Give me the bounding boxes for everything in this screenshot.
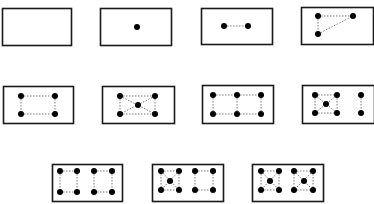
dot (301, 178, 307, 184)
panel-frame (4, 87, 74, 124)
panel-8-dots (53, 165, 123, 202)
dot (210, 111, 216, 117)
dot (74, 168, 80, 174)
dot (291, 187, 297, 193)
dot (210, 92, 216, 98)
dot (334, 92, 340, 98)
dot (221, 23, 227, 29)
dot (210, 187, 216, 193)
dot (234, 92, 240, 98)
dot (18, 111, 24, 117)
dashed-connector (318, 16, 353, 34)
panel-6-dots (203, 86, 274, 124)
dot (291, 168, 297, 174)
dot (91, 189, 97, 195)
panel-10-dots (253, 165, 324, 202)
dot (312, 110, 318, 116)
dot (117, 111, 123, 117)
dot-pattern-diagram (0, 0, 374, 204)
dot (57, 168, 63, 174)
dot (109, 189, 115, 195)
dot (334, 110, 340, 116)
dot (276, 187, 282, 193)
panel-3-dots (302, 8, 374, 45)
dot (258, 111, 264, 117)
panel-5-dots (103, 87, 175, 124)
dot (192, 168, 198, 174)
dot (258, 92, 264, 98)
panel-2-dots (202, 9, 273, 45)
diagram-canvas (0, 0, 374, 204)
dot (167, 178, 173, 184)
dot (358, 110, 364, 116)
dot (258, 168, 264, 174)
dot (315, 31, 321, 37)
dot (258, 187, 264, 193)
dot (312, 92, 318, 98)
panel-0-dots (3, 9, 72, 46)
dot (234, 111, 240, 117)
dot (176, 187, 182, 193)
dot (52, 111, 58, 117)
panel-4-dots (4, 87, 74, 124)
dot (358, 92, 364, 98)
dot (315, 13, 321, 19)
dot (276, 168, 282, 174)
dot (109, 168, 115, 174)
panel-7-dots (303, 86, 374, 124)
dot (310, 187, 316, 193)
dot (158, 168, 164, 174)
dot (152, 111, 158, 117)
dot (310, 168, 316, 174)
panel-frame (202, 9, 273, 45)
dot (176, 168, 182, 174)
dot (57, 189, 63, 195)
panel-frame (302, 8, 374, 45)
panel-frame (303, 86, 374, 124)
dot (267, 178, 273, 184)
dot (158, 187, 164, 193)
dot (350, 13, 356, 19)
dot (323, 101, 329, 107)
panel-1-dots (101, 9, 172, 46)
dot (135, 102, 141, 108)
panel-frame (3, 9, 72, 46)
dot (245, 23, 251, 29)
dot (117, 93, 123, 99)
dot (18, 93, 24, 99)
dot (74, 189, 80, 195)
dot (192, 187, 198, 193)
dot (152, 93, 158, 99)
dot (52, 93, 58, 99)
panel-9-dots (153, 165, 224, 202)
dot (210, 168, 216, 174)
dot (134, 24, 140, 30)
dot (91, 168, 97, 174)
